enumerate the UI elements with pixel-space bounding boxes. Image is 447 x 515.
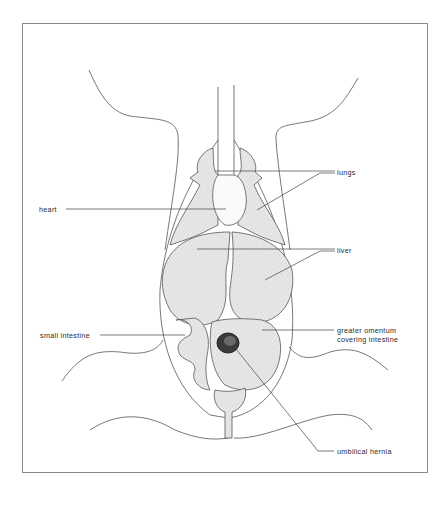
- trachea: [218, 85, 234, 175]
- greater-omentum: [210, 319, 280, 390]
- body-outline-left-shoulder: [89, 70, 178, 250]
- liver-left-lobe: [162, 232, 230, 325]
- label-heart: heart: [39, 205, 57, 214]
- anatomy-illustration: [0, 0, 447, 515]
- body-outline-left-hind: [90, 417, 228, 439]
- label-liver: liver: [337, 246, 352, 255]
- label-umbilical-hernia: umbilical hernia: [337, 447, 392, 456]
- body-outline-right-hind: [234, 414, 372, 438]
- label-greater-omentum: greater omentum: [337, 326, 396, 335]
- liver-right-lobe: [230, 232, 293, 322]
- small-intestine: [176, 318, 210, 390]
- body-outline-right-shoulder: [276, 78, 358, 250]
- body-outline-left-flank: [62, 340, 163, 381]
- label-lungs: lungs: [337, 168, 356, 177]
- label-small-intestine: small intestine: [40, 331, 90, 340]
- bladder: [214, 388, 245, 438]
- label-greater-omentum-line2: covering intestine: [337, 335, 398, 344]
- heart: [213, 175, 247, 225]
- body-outline-right-flank: [289, 347, 388, 370]
